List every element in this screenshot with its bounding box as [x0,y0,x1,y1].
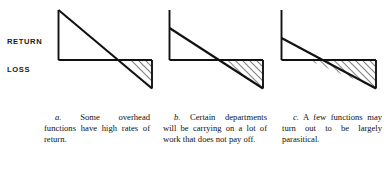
axis-label-return: RETURN [7,38,42,46]
chart-panel-c [272,6,378,92]
chart-panel-b [166,6,272,92]
chart-panel-a [55,6,161,92]
caption-b-letter: b. [174,112,180,122]
chart-svg-c [272,6,378,92]
chart-svg-b [166,6,272,92]
chart-svg-a [55,6,161,92]
caption-a: a. Some overhead functions have high rat… [44,112,150,146]
figure-return-vs-loss: RETURN LOSS [0,0,388,185]
trend-line-a [59,10,153,89]
axis-label-loss: LOSS [7,66,30,74]
caption-c-letter: c. [293,112,299,122]
caption-b: b. Certain departments will be carrying … [163,112,267,146]
caption-c: c. A few functions may turn out to be la… [282,112,382,146]
trend-line-b [170,28,264,89]
caption-a-letter: a. [55,112,61,122]
